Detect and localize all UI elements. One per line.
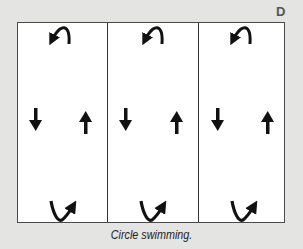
arrow-down-icon <box>29 108 42 131</box>
arrow-up-icon <box>170 111 183 134</box>
lane-1 <box>29 28 92 221</box>
arrow-down-icon <box>119 108 132 131</box>
lane-3 <box>211 28 274 221</box>
u-turn-left-icon <box>233 28 250 44</box>
figure-caption: Circle swimming. <box>15 228 288 242</box>
arrow-up-icon <box>79 111 92 134</box>
arrow-up-icon <box>261 111 274 134</box>
swim-pattern-arrows <box>0 0 303 249</box>
u-turn-right-icon <box>141 201 163 220</box>
u-turn-left-icon <box>52 28 69 44</box>
u-turn-right-icon <box>51 201 73 220</box>
lane-2 <box>119 28 183 221</box>
arrow-down-icon <box>211 108 224 131</box>
u-turn-right-icon <box>232 201 254 220</box>
u-turn-left-icon <box>145 28 162 44</box>
